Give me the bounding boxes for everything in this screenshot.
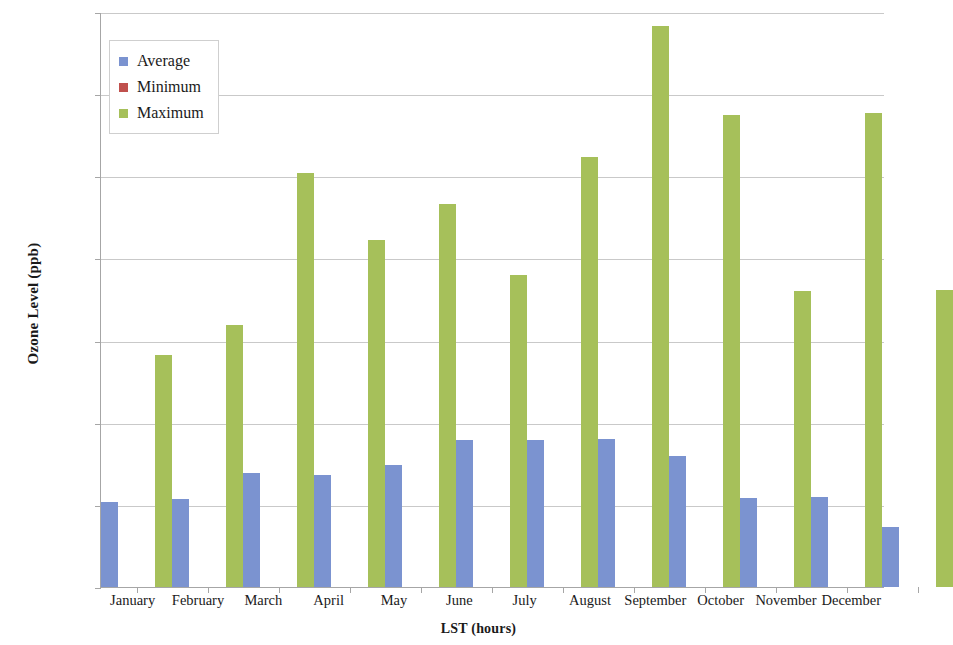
x-axis-tick-label: May — [361, 592, 426, 609]
bar-average — [456, 440, 473, 587]
x-axis-tick-label: October — [688, 592, 753, 609]
bar-average — [811, 497, 828, 587]
legend-item: Average — [119, 48, 204, 74]
chart-legend: AverageMinimumMaximum — [109, 40, 219, 134]
y-axis-title: Ozone Level (ppb) — [25, 174, 42, 434]
x-axis-tick-label: November — [753, 592, 818, 609]
x-axis-tick-label: September — [623, 592, 688, 609]
bar-average — [172, 499, 189, 587]
bar-maximum — [155, 355, 172, 587]
bar-maximum — [936, 290, 953, 587]
bar-group — [243, 13, 314, 587]
bar-group — [811, 13, 882, 587]
bar-maximum — [297, 173, 314, 587]
legend-item: Maximum — [119, 100, 204, 126]
x-axis-tick-label: July — [492, 592, 557, 609]
bar-maximum — [865, 113, 882, 587]
bar-maximum — [652, 26, 669, 587]
bar-group — [598, 13, 669, 587]
bar-group — [456, 13, 527, 587]
x-axis-title: LST (hours) — [60, 621, 897, 637]
legend-swatch-icon — [119, 57, 128, 66]
bar-group — [740, 13, 811, 587]
x-axis-tick-label: August — [557, 592, 622, 609]
bar-group — [669, 13, 740, 587]
bar-maximum — [226, 325, 243, 587]
bar-average — [243, 473, 260, 587]
x-axis-tick-label: December — [819, 592, 884, 609]
bar-average — [314, 475, 331, 587]
bar-group — [385, 13, 456, 587]
bar-maximum — [581, 157, 598, 587]
legend-label: Minimum — [137, 79, 201, 95]
legend-item: Minimum — [119, 74, 204, 100]
bar-maximum — [368, 240, 385, 587]
bar-average — [527, 440, 544, 587]
bar-average — [669, 456, 686, 587]
bar-average — [882, 527, 899, 587]
bar-maximum — [794, 291, 811, 587]
bar-average — [598, 439, 615, 587]
bar-group — [314, 13, 385, 587]
bar-group — [527, 13, 598, 587]
legend-swatch-icon — [119, 83, 128, 92]
x-axis-tick-mark — [918, 587, 919, 593]
x-axis-tick-label: June — [427, 592, 492, 609]
legend-swatch-icon — [119, 109, 128, 118]
legend-label: Maximum — [137, 105, 204, 121]
bar-maximum — [723, 115, 740, 587]
x-axis-tick-label: January — [100, 592, 165, 609]
y-axis-tick-mark — [95, 588, 101, 589]
x-axis-tick-label: March — [231, 592, 296, 609]
bar-average — [101, 502, 118, 587]
x-axis-tick-label: February — [165, 592, 230, 609]
bar-maximum — [510, 275, 527, 587]
legend-label: Average — [137, 53, 190, 69]
bar-average — [385, 465, 402, 587]
bar-group — [882, 13, 953, 587]
bar-average — [740, 498, 757, 587]
bar-maximum — [439, 204, 456, 587]
x-axis-tick-label: April — [296, 592, 361, 609]
